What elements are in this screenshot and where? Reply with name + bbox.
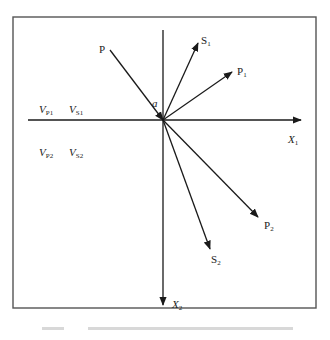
x2-axis-label: X2 bbox=[172, 299, 182, 312]
vp1-label: VP1 bbox=[39, 104, 53, 117]
ray-p2 bbox=[163, 120, 258, 217]
vp2-label: VP2 bbox=[39, 147, 53, 160]
ray-s2 bbox=[163, 120, 210, 249]
caption-fragment bbox=[42, 327, 64, 330]
vector-diagram bbox=[0, 0, 330, 340]
ray-p bbox=[110, 50, 163, 120]
diagram-frame bbox=[13, 17, 316, 308]
diagram-canvas: P S1 P1 P2 S2 a X1 X2 VP1 VS1 VP2 VS2 bbox=[0, 0, 330, 340]
ray-label-s2: S2 bbox=[211, 254, 221, 267]
vs2-label: VS2 bbox=[69, 147, 83, 160]
angle-label: a bbox=[152, 98, 158, 109]
ray-label-p: P bbox=[99, 44, 105, 55]
ray-label-s1: S1 bbox=[201, 35, 211, 48]
x1-axis-label: X1 bbox=[288, 134, 298, 147]
ray-group bbox=[110, 43, 258, 249]
figure-caption bbox=[88, 327, 293, 330]
vs1-label: VS1 bbox=[69, 104, 83, 117]
ray-label-p1: P1 bbox=[237, 66, 247, 79]
ray-label-p2: P2 bbox=[264, 220, 274, 233]
